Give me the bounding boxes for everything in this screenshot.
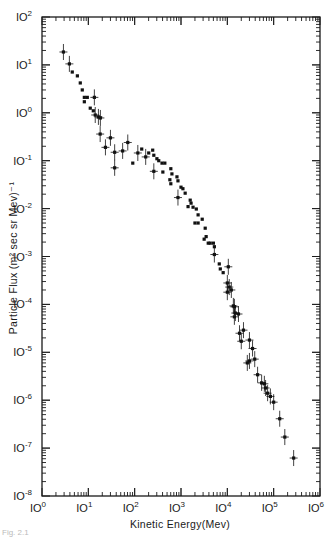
x-tick-label: IO2 [123,500,140,514]
data-point [113,166,116,169]
data-point [126,141,129,144]
x-tick-label: IO1 [76,500,93,514]
y-tick-label: IO-5 [13,344,32,358]
data-point [121,149,124,152]
figure-caption-fragment: Fig. 2.1 [2,528,29,537]
data-point [193,221,196,224]
data-point [283,435,286,438]
data-point [176,179,179,182]
data-point [204,227,207,230]
data-point [163,162,166,165]
data-point [266,392,269,395]
data-point [86,96,89,99]
data-point [157,159,160,162]
data-point [131,162,134,165]
data-point [227,265,230,268]
data-point [213,253,216,256]
data-point [219,267,222,270]
data-point [99,116,102,119]
x-tick-labels: IO0IO1IO2IO3IO4IO5IO6 [30,500,325,514]
data-point [79,81,82,84]
data-point [256,373,259,376]
data-point [228,285,231,288]
data-point [62,50,65,53]
data-point [89,107,92,110]
data-point [251,347,254,350]
data-point [264,386,267,389]
data-point [81,88,84,91]
y-tick-label: IO-7 [13,440,32,454]
data-point [99,132,102,135]
data-point [93,96,96,99]
data-point [240,340,243,343]
x-tick-label: IO5 [262,500,279,514]
y-tick-label: IO-1 [13,153,32,167]
data-point [246,361,249,364]
data-point [201,218,204,221]
data-point [147,151,150,154]
data-point [218,262,221,265]
data-point [170,172,173,175]
data-point [94,113,97,116]
data-point [272,401,275,404]
data-point [189,199,192,202]
data-point [169,182,172,185]
data-point [189,202,192,205]
data-point [203,238,206,241]
y-axis-title: Particle Flux (m² sec sr Mev)⁻¹ [7,182,19,335]
data-point [237,312,240,315]
data-point [209,242,212,245]
y-tick-label: IO0 [16,105,33,119]
data-point [242,329,245,332]
x-tick-label: IO3 [169,500,186,514]
data-point [76,74,79,77]
data-point [191,206,194,209]
flux-vs-energy-chart: IO0IO1IO2IO3IO4IO5IO6 IO2IO1IO0IO-1IO-2I… [0,0,335,537]
data-point [83,100,86,103]
data-point [184,192,187,195]
data-point [68,62,71,65]
data-point [104,146,107,149]
y-tick-label: IO2 [16,9,33,23]
data-point [238,332,241,335]
data-point [151,149,154,152]
y-tick-label: IO-6 [13,392,32,406]
data-point [144,155,147,158]
data-point [176,196,179,199]
y-tick-label: IO1 [16,57,33,71]
data-point [83,96,86,99]
data-point [169,167,172,170]
data-point [226,291,229,294]
data-point [136,151,139,154]
y-tick-label: IO-8 [13,488,32,502]
data-point [175,175,178,178]
data-point [113,151,116,154]
data-point [71,70,74,73]
data-point [233,315,236,318]
data-point [292,456,295,459]
x-tick-label: IO0 [30,500,47,514]
data-point [160,162,163,165]
data-point [226,281,229,284]
data-point [186,205,189,208]
data-point [152,170,155,173]
x-axis-title: Kinetic Energy(Mev) [130,518,230,530]
data-point [109,136,112,139]
data-point [248,338,251,341]
data-point [152,154,155,157]
data-point [230,288,233,291]
data-point [161,170,164,173]
x-tick-label: IO6 [308,500,325,514]
data-point [195,207,198,210]
data-point [197,213,200,216]
data-points [59,44,297,466]
data-point [168,178,171,181]
data-point [181,187,184,190]
data-point [222,271,225,274]
data-point [253,358,256,361]
data-point [92,109,95,112]
data-point [140,147,143,150]
data-point [269,395,272,398]
data-point [278,417,281,420]
data-point [212,242,215,245]
